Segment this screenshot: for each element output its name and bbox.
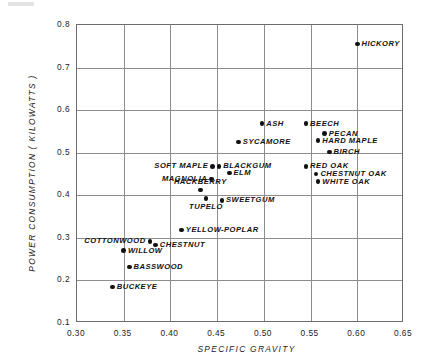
gridline-horizontal (77, 110, 402, 111)
data-point (148, 239, 153, 244)
data-point (304, 164, 309, 169)
data-point (127, 265, 132, 270)
data-point-label: COTTONWOOD (84, 237, 145, 245)
data-point-label: ELM (233, 169, 251, 177)
data-point-label: BASSWOOD (134, 263, 184, 271)
gridline-vertical (264, 25, 265, 321)
data-point-label: SOFT MAPLE (154, 163, 208, 171)
y-axis-tick-label: 0.2 (36, 274, 70, 284)
y-axis-tick-label: 0.8 (36, 19, 70, 29)
x-axis-tick-label: 0.35 (103, 328, 143, 338)
data-point-label: HARD MAPLE (322, 137, 378, 145)
data-point-label: SWEETGUM (226, 197, 275, 205)
x-axis-tick-label: 0.65 (383, 328, 423, 338)
data-point-label: WHITE OAK (322, 178, 370, 186)
y-axis-tick-label: 0.7 (36, 62, 70, 72)
scan-artifact (8, 2, 34, 6)
data-point-label: BUCKEYE (117, 283, 158, 291)
data-point (316, 138, 321, 143)
data-point (227, 171, 232, 176)
x-axis-tick-label: 0.30 (56, 328, 96, 338)
y-axis-tick-label: 0.6 (36, 104, 70, 114)
y-axis-title: POWER CONSUMPTION ( KILOWATTS ) (27, 43, 37, 303)
data-point-label: ASH (266, 120, 284, 128)
x-axis-title: SPECIFIC GRAVITY (0, 344, 433, 354)
data-point (327, 150, 332, 155)
y-axis-tick-label: 0.1 (36, 317, 70, 327)
data-point-label: CHESTNUT (160, 241, 205, 249)
data-point (121, 248, 126, 253)
gridline-horizontal (77, 68, 402, 69)
data-point-label: TUPELO (189, 203, 223, 211)
x-axis-tick-label: 0.55 (290, 328, 330, 338)
scatter-chart-figure: HICKORYASHBEECHPECANHARD MAPLEBIRCHSYCAM… (0, 0, 433, 364)
data-point (110, 285, 115, 290)
data-point-label: BIRCH (333, 148, 360, 156)
data-point (314, 172, 319, 177)
data-point (210, 164, 215, 169)
data-point (355, 42, 360, 47)
data-point (316, 179, 321, 184)
gridline-vertical (170, 25, 171, 321)
x-axis-tick-label: 0.50 (243, 328, 283, 338)
gridline-vertical (124, 25, 125, 321)
data-point (204, 196, 209, 201)
data-point-label: BEECH (310, 120, 339, 128)
data-point-label: HACKBERRY (174, 179, 227, 187)
data-point-label: WILLOW (128, 247, 163, 255)
y-axis-tick-label: 0.4 (36, 189, 70, 199)
data-point (217, 164, 222, 169)
data-point-label: SYCAMORE (243, 138, 291, 146)
data-point (220, 198, 225, 203)
x-axis-tick-label: 0.40 (149, 328, 189, 338)
data-point (304, 121, 309, 126)
x-axis-tick-label: 0.60 (336, 328, 376, 338)
data-point (179, 228, 184, 233)
data-point-label: HICKORY (361, 40, 399, 48)
y-axis-tick-label: 0.3 (36, 232, 70, 242)
x-axis-tick-label: 0.45 (196, 328, 236, 338)
y-axis-tick-label: 0.5 (36, 147, 70, 157)
gridline-vertical (217, 25, 218, 321)
data-point-label: YELLOW-POPLAR (186, 226, 259, 234)
data-point (198, 188, 203, 193)
data-point (236, 140, 241, 145)
plot-area: HICKORYASHBEECHPECANHARD MAPLEBIRCHSYCAM… (76, 24, 403, 322)
gridline-vertical (311, 25, 312, 321)
